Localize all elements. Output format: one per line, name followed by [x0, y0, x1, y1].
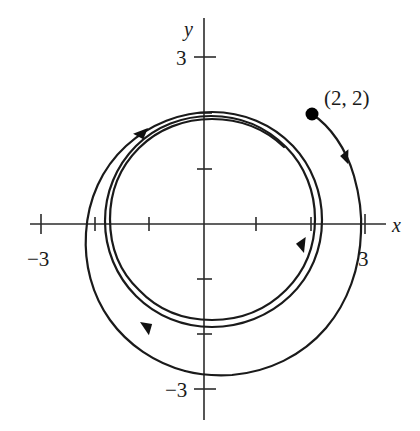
y-tick-label-neg3: −3	[165, 378, 187, 402]
plot-canvas: x y −3 3 3 −3 (2, 2)	[0, 0, 420, 431]
y-tick-label-pos3: 3	[176, 46, 187, 70]
initial-point-label: (2, 2)	[324, 86, 370, 110]
flow-arrow-right-icon	[295, 237, 309, 254]
limit-cycle-circle	[110, 119, 315, 320]
axes-group	[30, 18, 386, 420]
y-axis-label: y	[182, 18, 193, 41]
arrowheads-group	[133, 124, 353, 335]
trajectory-entry-segment	[312, 114, 361, 232]
trajectory-group	[86, 112, 362, 375]
trajectory-outer-sweep	[185, 232, 361, 375]
x-tick-label-neg3: −3	[27, 247, 49, 271]
x-axis-label: x	[391, 214, 401, 236]
initial-point-dot	[306, 108, 319, 121]
trajectory-spiral-turn2	[105, 116, 322, 327]
x-tick-label-pos3: 3	[358, 247, 369, 271]
y-axis-ticks	[194, 57, 216, 389]
phase-portrait-figure: x y −3 3 3 −3 (2, 2)	[0, 0, 420, 431]
flow-arrow-lower-left-icon	[137, 318, 156, 336]
